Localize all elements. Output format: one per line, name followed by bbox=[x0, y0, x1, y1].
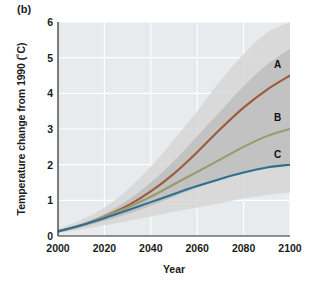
series-label-C: C bbox=[274, 150, 281, 160]
chart-plot-area bbox=[0, 0, 311, 285]
series-label-B: B bbox=[274, 113, 281, 123]
figure-panel-b: (b) Temperature change from 1990 (˚C) Ye… bbox=[0, 0, 311, 285]
series-label-A: A bbox=[274, 60, 281, 70]
